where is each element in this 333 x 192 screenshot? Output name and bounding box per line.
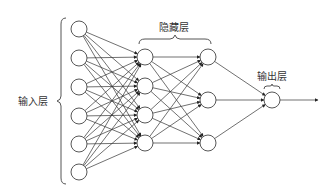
hidden2-node xyxy=(200,49,216,65)
output-node xyxy=(264,92,280,108)
input-node xyxy=(71,79,87,95)
output-layer-label: 输出层 xyxy=(257,68,287,83)
connection-edge xyxy=(153,102,200,113)
hidden1-node xyxy=(137,107,153,123)
connection-edge xyxy=(86,60,137,83)
connection-edge xyxy=(84,92,140,165)
input-node xyxy=(71,164,87,180)
connection-edge xyxy=(215,104,266,138)
connection-edge xyxy=(153,88,200,99)
connection-edge xyxy=(151,91,202,137)
hidden2-node xyxy=(200,92,216,108)
input-node xyxy=(71,136,87,152)
hidden2-node xyxy=(200,135,216,151)
connection-edge xyxy=(151,62,202,109)
connection-edge xyxy=(152,60,200,82)
output-layer-brace xyxy=(264,84,280,89)
connection-edge xyxy=(86,32,137,54)
hidden1-node xyxy=(137,78,153,94)
neurons xyxy=(71,21,280,180)
input-node xyxy=(71,50,87,66)
input-layer-brace xyxy=(57,18,66,184)
hidden1-node xyxy=(137,135,153,151)
hidden1-node xyxy=(137,49,153,65)
connection-edge xyxy=(152,62,202,96)
connection-edge xyxy=(87,57,137,58)
connection-edge xyxy=(86,146,137,169)
input-layer-label: 输入层 xyxy=(18,93,48,108)
input-node xyxy=(71,21,87,37)
hidden-layer-brace xyxy=(139,35,211,44)
hidden-layer-label: 隐藏层 xyxy=(159,19,189,34)
input-node xyxy=(71,108,87,124)
connection-edge xyxy=(83,64,141,165)
